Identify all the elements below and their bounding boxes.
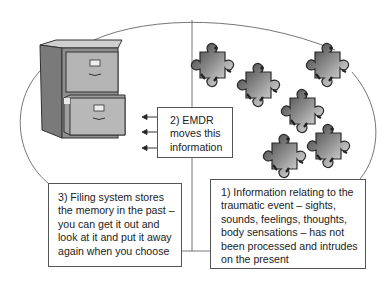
info-line: been processed and intrudes (221, 240, 365, 253)
puzzle-piece-icon (307, 124, 349, 167)
info-line: traumatic event – sights, (221, 199, 365, 212)
puzzle-piece-icon (281, 89, 323, 132)
puzzle-piece-icon (306, 43, 348, 86)
ellipse-right (352, 72, 376, 179)
emdr-line: information (170, 141, 232, 154)
emdr-line: moves this (170, 127, 232, 140)
filing-line: 3) Filing system stores (58, 191, 181, 204)
info-line: body sensations – has not (221, 226, 365, 239)
filing-line: the memory in the past – (58, 204, 181, 217)
puzzle-piece-icon (191, 43, 233, 86)
filing-line: you can get it out and (58, 218, 181, 231)
info-line: sounds, feelings, thoughts, (221, 213, 365, 226)
traumatic-info-box: 1) Information relating to the traumatic… (210, 179, 366, 269)
filing-cabinet-icon (40, 40, 125, 138)
puzzle-piece-icon (237, 63, 279, 106)
arrow-icon (142, 115, 157, 151)
emdr-line: 2) EMDR (170, 114, 232, 127)
info-line: 1) Information relating to the (221, 186, 365, 199)
filing-system-box: 3) Filing system stores the memory in th… (48, 183, 182, 267)
emdr-box: 2) EMDR moves this information (157, 107, 233, 158)
puzzle-piece-icon (263, 134, 305, 177)
filing-line: again when you choose (58, 245, 181, 258)
info-line: on the present (221, 253, 365, 266)
filing-line: look at it and put it away (58, 231, 181, 244)
